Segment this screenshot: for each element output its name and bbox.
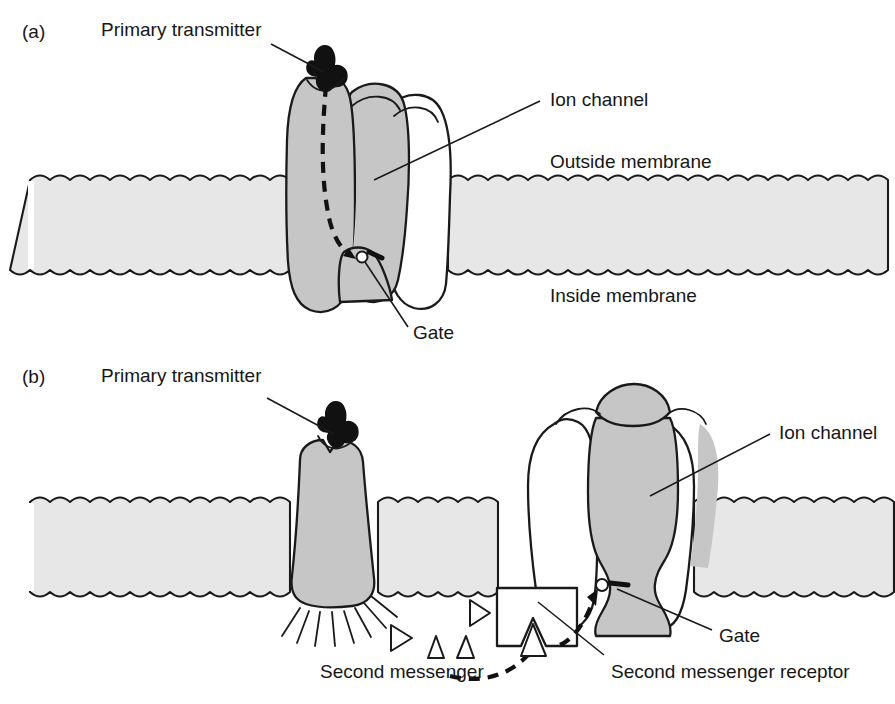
membrane-middle-b	[378, 498, 498, 597]
label-gate-a: Gate	[413, 322, 454, 343]
membrane-band-left-b	[30, 498, 290, 597]
gate-circle-a	[357, 252, 368, 263]
label-primary-transmitter-a: Primary transmitter	[101, 19, 262, 40]
panel-a-id: (a)	[22, 21, 45, 42]
label-primary-transmitter-b: Primary transmitter	[101, 365, 262, 386]
receptor-body-b	[292, 440, 375, 607]
label-ion-channel-a: Ion channel	[550, 89, 648, 110]
membrane-band-left-a	[10, 176, 310, 275]
membrane-left-b	[28, 498, 290, 597]
membrane-band-right-b	[694, 498, 894, 597]
gate-bar-b	[610, 583, 628, 585]
label-second-messenger-b: Second messenger	[320, 661, 484, 682]
label-second-messenger-receptor-b: Second messenger receptor	[611, 661, 850, 682]
figure-root: (a) Primary transmitter Ion channel Outs…	[0, 0, 895, 704]
label-gate-b: Gate	[719, 625, 760, 646]
membrane-right-b	[694, 498, 894, 597]
panel-b-id: (b)	[22, 366, 45, 387]
label-outside-membrane-a: Outside membrane	[550, 151, 712, 172]
membrane-left-a	[10, 176, 310, 275]
membrane-band-middle-b	[378, 498, 498, 597]
membrane-band-right-a	[448, 176, 888, 275]
label-ion-channel-b: Ion channel	[779, 422, 877, 443]
canvas-background	[0, 0, 895, 704]
membrane-right-a	[448, 176, 888, 275]
label-inside-membrane-a: Inside membrane	[550, 285, 697, 306]
